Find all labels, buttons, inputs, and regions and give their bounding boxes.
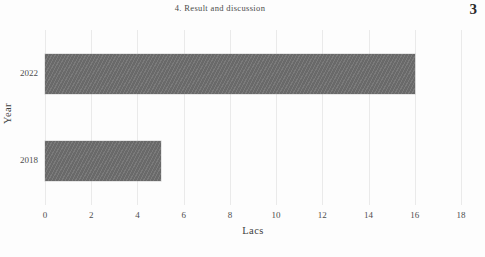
x-tick-label: 16	[400, 210, 430, 220]
y-tick-label: 2022	[0, 68, 38, 78]
x-tick-label: 0	[30, 210, 60, 220]
bar	[45, 54, 415, 94]
x-tick-label: 8	[215, 210, 245, 220]
x-tick-label: 4	[122, 210, 152, 220]
x-tick-label: 6	[169, 210, 199, 220]
document-page: 4. Result and discussion 3 20182022 0246…	[0, 0, 485, 257]
gridline	[461, 30, 462, 205]
x-tick-label: 14	[354, 210, 384, 220]
x-axis-title: Lacs	[45, 225, 461, 236]
y-axis-title: Year	[2, 91, 13, 137]
page-number: 3	[470, 1, 478, 18]
x-tick-label: 2	[76, 210, 106, 220]
x-tick-label: 12	[307, 210, 337, 220]
section-heading: 4. Result and discussion	[0, 3, 440, 13]
x-tick-label: 10	[261, 210, 291, 220]
x-tick-label: 18	[446, 210, 476, 220]
bar	[45, 141, 161, 181]
running-header: 4. Result and discussion 3	[0, 3, 485, 19]
gridline	[415, 30, 416, 205]
y-tick-label: 2018	[0, 155, 38, 165]
plot-area	[45, 30, 461, 205]
bar-chart: 20182022 024681012141618 Lacs Year	[0, 22, 485, 257]
